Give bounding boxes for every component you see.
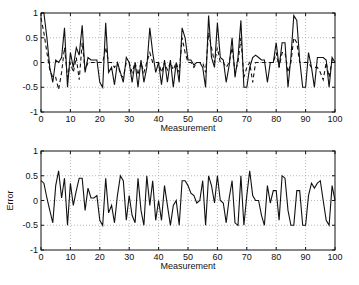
x-tick-label: 100	[327, 252, 342, 262]
x-tick-label: 20	[95, 252, 105, 262]
x-tick-label: 30	[124, 252, 134, 262]
x-tick-label: 80	[271, 252, 281, 262]
x-tick-label: 0	[38, 252, 43, 262]
y-tick-label: 0.5	[25, 171, 38, 181]
y-tick-label: -0.5	[22, 82, 38, 92]
x-tick-label: 70	[242, 252, 252, 262]
y-tick-label: 0	[33, 196, 38, 206]
grid-lines	[41, 151, 335, 250]
x-axis-label: Measurement	[160, 123, 216, 133]
x-tick-label: 20	[95, 114, 105, 124]
x-tick-label: 10	[65, 114, 75, 124]
x-tick-label: 10	[65, 252, 75, 262]
x-tick-label: 70	[242, 114, 252, 124]
y-tick-label: -1	[30, 245, 38, 255]
x-tick-label: 80	[271, 114, 281, 124]
y-tick-label: 1	[33, 146, 38, 156]
figure: 0102030405060708090100-1-0.500.51Measure…	[0, 0, 359, 285]
x-tick-label: 100	[327, 114, 342, 124]
y-tick-label: 1	[33, 8, 38, 18]
x-tick-label: 90	[301, 114, 311, 124]
x-tick-label: 90	[301, 252, 311, 262]
y-tick-label: -0.5	[22, 220, 38, 230]
y-axis-label: Error	[5, 190, 15, 210]
x-tick-label: 0	[38, 114, 43, 124]
y-tick-label: 0.5	[25, 33, 38, 43]
bottom-plot: 0102030405060708090100-1-0.500.51Measure…	[5, 146, 343, 271]
x-axis-label: Measurement	[160, 261, 216, 271]
x-tick-label: 30	[124, 114, 134, 124]
y-tick-label: 0	[33, 58, 38, 68]
top-plot: 0102030405060708090100-1-0.500.51Measure…	[22, 8, 342, 133]
y-tick-label: -1	[30, 107, 38, 117]
